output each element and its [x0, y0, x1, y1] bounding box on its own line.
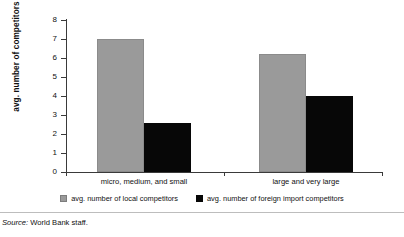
- chart-figure: avg. number of competitors 012345678 mic…: [0, 0, 404, 237]
- source-note: Source: World Bank staff.: [2, 218, 88, 227]
- x-axis-tick: [224, 172, 225, 176]
- plot-area: avg. number of competitors 012345678 mic…: [0, 0, 404, 190]
- x-axis-tick: [382, 172, 383, 176]
- legend-item-local: avg. number of local competitors: [60, 194, 178, 203]
- x-axis-category-label: micro, medium, and small: [74, 177, 214, 186]
- bar-local-group-2: [259, 54, 306, 172]
- source-text: World Bank staff.: [30, 218, 88, 227]
- x-axis-category-label: large and very large: [236, 177, 376, 186]
- footer-divider: [0, 212, 404, 213]
- x-axis-tick: [66, 172, 67, 176]
- bar-local-group-1: [97, 39, 144, 172]
- bars-layer: [0, 0, 404, 172]
- legend-label: avg. number of foreign import competitor…: [207, 194, 344, 203]
- legend-label: avg. number of local competitors: [71, 194, 178, 203]
- legend-swatch-icon: [60, 195, 67, 202]
- legend-swatch-icon: [196, 195, 203, 202]
- chart-legend: avg. number of local competitorsavg. num…: [0, 194, 404, 203]
- bar-foreign-group-1: [144, 123, 191, 172]
- legend-item-foreign: avg. number of foreign import competitor…: [196, 194, 344, 203]
- source-keyword: Source:: [2, 218, 28, 227]
- bar-foreign-group-2: [306, 96, 353, 172]
